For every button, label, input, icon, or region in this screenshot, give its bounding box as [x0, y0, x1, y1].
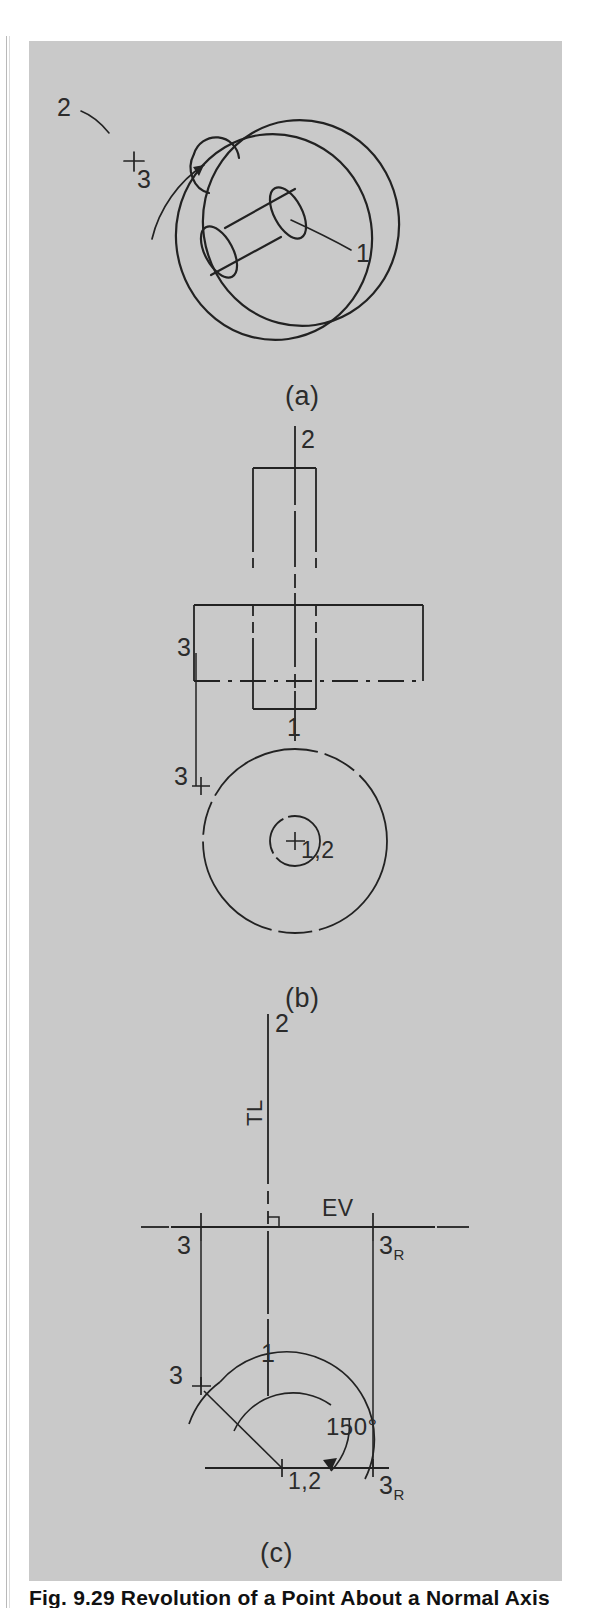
label-c-point-1: 1	[261, 1339, 275, 1368]
radius-line	[204, 1391, 282, 1468]
figure-plate: 2 3 1 (a) 2 3 1 3 1,2 (b) 2 TL EV 3 3R 1…	[29, 41, 562, 1581]
label-c-point-3r-upper: 3R	[379, 1231, 405, 1263]
panel-c-caption: (c)	[260, 1538, 293, 1569]
page-margin-rule-secondary	[9, 36, 10, 1608]
label-b-point-2: 2	[301, 425, 315, 454]
label-c-point-3r-lower: 3R	[379, 1471, 405, 1503]
rotation-arc-tail-right	[365, 1455, 373, 1479]
label-a-point-2: 2	[57, 93, 71, 122]
right-angle-mark	[268, 1217, 279, 1227]
label-true-length: TL	[242, 1099, 268, 1126]
label-a-point-3: 3	[137, 165, 151, 194]
label-c-point-3-upper: 3	[177, 1231, 191, 1260]
label-b-point-1: 1	[287, 713, 301, 742]
panel-b-caption: (b)	[285, 983, 320, 1014]
dimension-arrow-head	[323, 1458, 337, 1471]
label-c-point-3r-upper-sub: R	[393, 1246, 404, 1263]
label-a-point-1: 1	[356, 239, 370, 268]
label-c-point-3r-upper-base: 3	[379, 1231, 393, 1259]
page-margin-rule	[6, 36, 7, 1608]
label-b-point-3-bottom: 3	[174, 762, 188, 791]
label-c-point-1-2: 1,2	[288, 1468, 321, 1495]
label-c-point-3-lower: 3	[169, 1361, 183, 1390]
label-edge-view: EV	[322, 1195, 354, 1222]
label-angle-150: 150°	[326, 1413, 378, 1441]
label-c-point-3r-lower-base: 3	[379, 1471, 393, 1499]
label-c-point-3r-lower-sub: R	[393, 1486, 404, 1503]
figure-caption: Fig. 9.29 Revolution of a Point About a …	[29, 1586, 589, 1608]
label-b-point-1-2: 1,2	[301, 837, 334, 864]
panel-c-drawing	[29, 41, 562, 1581]
panel-a-caption: (a)	[285, 381, 320, 412]
label-c-point-2: 2	[275, 1009, 289, 1038]
figure-page: 2 3 1 (a) 2 3 1 3 1,2 (b) 2 TL EV 3 3R 1…	[0, 0, 601, 1608]
label-b-point-3-front: 3	[177, 633, 191, 662]
dimension-arc-left	[234, 1393, 331, 1431]
